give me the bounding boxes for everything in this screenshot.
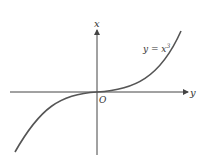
curve-label-exponent: 3 bbox=[166, 42, 170, 49]
horizontal-axis-label: y bbox=[189, 87, 196, 98]
cubic-graph: x y O y = x3 bbox=[0, 0, 204, 165]
curve-label: y = x3 bbox=[142, 42, 170, 54]
curve-label-base: y = x bbox=[142, 44, 166, 54]
vertical-axis-label: x bbox=[94, 18, 100, 29]
origin-label: O bbox=[99, 95, 107, 105]
